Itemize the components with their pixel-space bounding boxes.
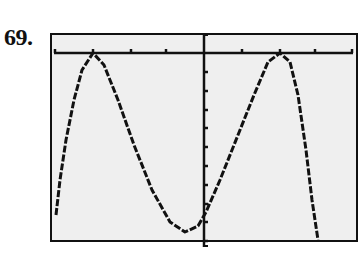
- graph-plot: [0, 0, 362, 256]
- function-curve: [56, 53, 318, 240]
